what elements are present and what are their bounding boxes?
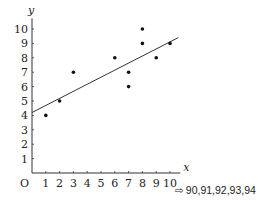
x-tick-label: 2 (56, 177, 63, 190)
x-tick-label: 5 (98, 177, 105, 190)
right-arrow-icon: ⇨ (175, 184, 184, 196)
y-tick-label: 5 (21, 95, 28, 108)
y-tick-label: 8 (21, 52, 28, 65)
data-point (58, 99, 62, 103)
y-tick-label: 6 (21, 81, 28, 94)
data-point (168, 42, 172, 46)
data-point (113, 56, 117, 60)
x-tick-label: 6 (111, 177, 118, 190)
x-tick-label: 8 (139, 177, 146, 190)
data-point (154, 56, 158, 60)
answer-annotation: ⇨ 90,91,92,93,94 (175, 184, 256, 196)
data-point (141, 27, 145, 31)
y-tick-label: 2 (21, 138, 28, 151)
y-tick-label: 9 (21, 37, 28, 50)
data-point (127, 70, 131, 74)
data-point (141, 42, 145, 46)
answer-text: 90,91,92,93,94 (186, 184, 256, 196)
y-tick-label: 3 (21, 124, 28, 137)
y-tick-label: 10 (14, 23, 28, 36)
y-tick-label: 4 (21, 109, 28, 122)
x-axis-label: x (183, 161, 190, 174)
data-point (127, 85, 131, 89)
data-point (72, 70, 76, 74)
axes (32, 18, 180, 173)
x-tick-label: 9 (153, 177, 160, 190)
x-tick-label: 7 (125, 177, 132, 190)
trend-line (32, 38, 178, 113)
x-tick-label: 4 (84, 177, 91, 190)
y-tick-label: 7 (21, 66, 28, 79)
ticks: 1234567891012345678910 (14, 23, 177, 190)
x-tick-label: 1 (42, 177, 49, 190)
y-axis-label: y (27, 4, 35, 17)
scatter-chart: 1234567891012345678910 x y O (0, 0, 268, 210)
y-tick-label: 1 (21, 153, 28, 166)
origin-label: O (20, 177, 29, 190)
data-point (44, 114, 48, 118)
x-tick-label: 3 (70, 177, 77, 190)
data-points (44, 27, 172, 117)
